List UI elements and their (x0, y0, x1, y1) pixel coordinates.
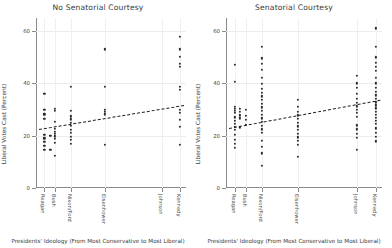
plot-area: 0204060ReaganBushNixon/FordEisenhowerJoh… (226, 18, 382, 188)
x-axis-tick (71, 188, 72, 192)
y-axis-tick (222, 188, 226, 189)
data-point (49, 149, 51, 151)
y-axis-tick-label: 40 (23, 80, 30, 86)
x-axis-tick-label: Bush (51, 194, 57, 207)
y-axis-tick (32, 136, 36, 137)
data-point (239, 108, 241, 110)
panel-title: No Senatorial Courtesy (0, 3, 196, 12)
gridline-vertical (298, 18, 299, 188)
y-axis-tick-label: 40 (213, 80, 220, 86)
x-axis-tick (262, 188, 263, 192)
gridline-vertical (71, 18, 72, 188)
y-axis-tick (222, 31, 226, 32)
gridline-horizontal (36, 83, 186, 84)
gridline-vertical (180, 18, 181, 188)
data-point (239, 111, 241, 113)
y-axis-label: Liberal Votes Cast (Percent) (1, 84, 7, 164)
gridline-horizontal (226, 31, 382, 32)
y-axis-tick-label: 60 (23, 28, 30, 34)
gridline-horizontal (226, 83, 382, 84)
y-axis-label: Liberal Votes Cast (Percent) (195, 84, 201, 164)
gridline-vertical (246, 18, 247, 188)
gridline-vertical (55, 18, 56, 188)
x-axis-tick-label: Kennedy (372, 194, 378, 216)
gridline-horizontal (226, 136, 382, 137)
x-axis-tick (357, 188, 358, 192)
plot-area: 0204060ReaganBushNixon/FordEisenhowerJoh… (36, 18, 186, 188)
y-axis-tick-label: 60 (213, 28, 220, 34)
x-axis-tick-label: Johnson (158, 194, 164, 214)
x-axis-line (36, 187, 186, 188)
y-axis-line (36, 18, 37, 188)
y-axis-tick (32, 188, 36, 189)
x-axis-tick-label: Kennedy (176, 194, 182, 216)
panel-senatorial-courtesy: Senatorial Courtesy Liberal Votes Cast (… (196, 0, 392, 248)
y-axis-tick (32, 31, 36, 32)
x-axis-label: Presidents' Ideology (From Most Conserva… (0, 238, 196, 244)
x-axis-label: Presidents' Ideology (From Most Conserva… (196, 238, 392, 244)
x-axis-tick-label: Nixon/Ford (67, 194, 73, 222)
gridline-horizontal (36, 31, 186, 32)
x-axis-tick (180, 188, 181, 192)
data-point (239, 114, 241, 116)
x-axis-tick-label: Reagan (231, 194, 237, 214)
y-axis-tick-label: 0 (217, 185, 220, 191)
gridline-vertical (105, 18, 106, 188)
x-axis-tick (376, 188, 377, 192)
x-axis-tick (55, 188, 56, 192)
x-axis-tick (105, 188, 106, 192)
gridline-vertical (162, 18, 163, 188)
x-axis-line (226, 187, 382, 188)
y-axis-tick-label: 0 (27, 185, 30, 191)
x-axis-tick (246, 188, 247, 192)
panel-title: Senatorial Courtesy (196, 3, 392, 12)
y-axis-tick-label: 20 (213, 133, 220, 139)
x-axis-tick (44, 188, 45, 192)
y-axis-tick (222, 83, 226, 84)
y-axis-tick-label: 20 (23, 133, 30, 139)
data-point (239, 117, 241, 119)
x-axis-tick (235, 188, 236, 192)
y-axis-tick (32, 83, 36, 84)
x-axis-tick-label: Johnson (353, 194, 359, 214)
x-axis-tick (162, 188, 163, 192)
gridline-vertical (235, 18, 236, 188)
x-axis-tick-label: Eisenhower (101, 194, 107, 224)
x-axis-tick-label: Bush (242, 194, 248, 207)
y-axis-tick (222, 136, 226, 137)
y-axis-line (226, 18, 227, 188)
x-axis-tick-label: Eisenhower (294, 194, 300, 224)
x-axis-tick-label: Nixon/Ford (258, 194, 264, 222)
figure: No Senatorial Courtesy Liberal Votes Cas… (0, 0, 392, 248)
x-axis-tick (298, 188, 299, 192)
panel-no-senatorial-courtesy: No Senatorial Courtesy Liberal Votes Cas… (0, 0, 196, 248)
gridline-horizontal (36, 136, 186, 137)
gridline-vertical (44, 18, 45, 188)
x-axis-tick-label: Reagan (40, 194, 46, 214)
